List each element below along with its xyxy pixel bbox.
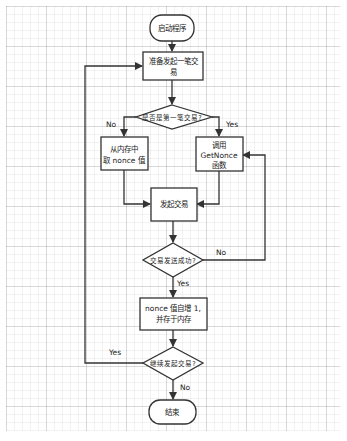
edge-label-continue-no: No <box>180 383 191 392</box>
edge-label-first-yes: Yes <box>225 120 238 129</box>
edge-memory-send <box>124 170 150 204</box>
prepare-label-2: 易 <box>170 68 177 77</box>
from-memory-label-1: 从内存中 <box>110 144 138 154</box>
edge-getnonce-send <box>197 171 219 204</box>
prepare-label-1: 准备发起一笔交 <box>149 56 199 66</box>
edge-isfirst-yes <box>212 117 219 136</box>
increment-box <box>140 298 207 330</box>
getnonce-label-3: 函数 <box>212 160 227 170</box>
edge-label-success-no: No <box>216 248 227 257</box>
send-tx-label: 发起交易 <box>160 199 188 209</box>
edge-isfirst-no <box>124 117 136 136</box>
flowchart-canvas: 启动程序 准备发起一笔交 易 是否是第一笔交易? 从内存中 取 nonce 值 … <box>0 0 347 441</box>
increment-label-2: 并存于内存 <box>156 314 192 324</box>
edge-label-success-yes: Yes <box>176 279 189 288</box>
start-label: 启动程序 <box>158 23 187 33</box>
from-memory-label-2: 取 nonce 值 <box>103 155 146 165</box>
getnonce-label-2: GetNonce <box>200 151 237 160</box>
end-label: 结束 <box>165 407 180 417</box>
increment-label-1: nonce 值自增 1, <box>145 303 201 313</box>
tx-success-label: 交易发送成功? <box>150 256 195 265</box>
is-first-label: 是否是第一笔交易? <box>142 113 201 122</box>
getnonce-label-1: 调用 <box>212 141 226 150</box>
continue-label: 继续发起交易? <box>150 359 195 368</box>
flowchart: 启动程序 准备发起一笔交 易 是否是第一笔交易? 从内存中 取 nonce 值 … <box>0 0 347 441</box>
edge-label-continue-yes: Yes <box>108 348 121 357</box>
edge-label-first-no: No <box>106 120 117 129</box>
edge-continue-yes <box>85 66 143 363</box>
